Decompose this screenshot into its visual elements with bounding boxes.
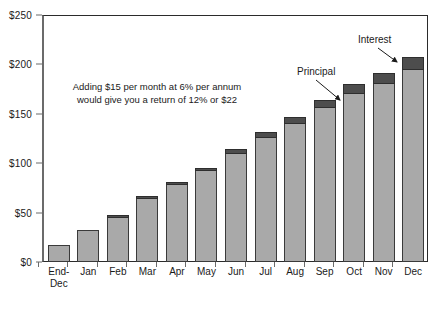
bar-group	[255, 15, 277, 262]
y-tick-label: $50	[15, 207, 32, 218]
bar-group	[77, 15, 99, 262]
bar-group	[136, 15, 158, 262]
bar-interest-segment	[195, 168, 217, 171]
bar-principal-segment	[166, 182, 188, 262]
bar-group	[107, 15, 129, 262]
bar-principal-segment	[48, 245, 70, 262]
bar-group	[166, 15, 188, 262]
y-tick-label: $100	[9, 158, 32, 169]
annotation-note-line1: Adding $15 per month at 6% per annum	[62, 80, 252, 93]
x-tick-label-line: Dec	[37, 278, 81, 290]
x-tick-label-line: Dec	[391, 266, 435, 278]
y-tick-label: $0	[20, 257, 32, 268]
bar-principal-segment	[343, 84, 365, 262]
savings-growth-chart: $0$50$100$150$200$250 End-DecJanFebMarAp…	[0, 0, 436, 316]
callout-label-interest: Interest	[358, 34, 391, 45]
annotation-note: Adding $15 per month at 6% per annum wou…	[62, 80, 252, 106]
bar-group	[402, 15, 424, 262]
bars-layer	[44, 15, 428, 262]
bar-interest-segment	[225, 149, 247, 154]
x-axis: End-DecJanFebMarAprMayJunJulAugSepOctNov…	[44, 266, 428, 310]
bar-interest-segment	[314, 100, 336, 108]
y-tick-label: $200	[9, 59, 32, 70]
annotation-note-line2: would give you a return of 12% or $22	[62, 93, 252, 106]
bar-principal-segment	[402, 57, 424, 262]
bar-principal-segment	[284, 117, 306, 262]
bar-group	[314, 15, 336, 262]
bar-group	[373, 15, 395, 262]
bar-principal-segment	[136, 196, 158, 262]
x-tick-label: Dec	[391, 266, 435, 278]
y-axis: $0$50$100$150$200$250	[0, 0, 42, 277]
bar-interest-segment	[166, 182, 188, 185]
bar-group	[225, 15, 247, 262]
bar-principal-segment	[373, 73, 395, 262]
bar-interest-segment	[373, 73, 395, 84]
bar-group	[343, 15, 365, 262]
bar-interest-segment	[402, 57, 424, 70]
bar-group	[48, 15, 70, 262]
bar-group	[284, 15, 306, 262]
bar-interest-segment	[343, 84, 365, 94]
bar-principal-segment	[107, 215, 129, 262]
bar-principal-segment	[77, 230, 99, 262]
y-tick-label: $150	[9, 108, 32, 119]
bar-interest-segment	[107, 215, 129, 218]
callout-label-principal: Principal	[297, 66, 335, 77]
bar-interest-segment	[284, 117, 306, 124]
bar-principal-segment	[255, 132, 277, 262]
bar-principal-segment	[314, 100, 336, 262]
bar-interest-segment	[136, 196, 158, 199]
bar-principal-segment	[225, 149, 247, 262]
bar-interest-segment	[255, 132, 277, 138]
y-tick-label: $250	[9, 10, 32, 21]
bar-group	[195, 15, 217, 262]
bar-principal-segment	[195, 168, 217, 262]
